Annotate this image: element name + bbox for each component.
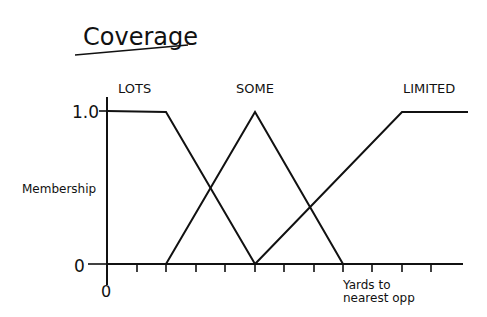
y-tick-label-top: 1.0 bbox=[72, 102, 99, 122]
x-axis-ticks bbox=[137, 264, 431, 272]
x-origin-label: 0 bbox=[101, 282, 111, 301]
x-axis-label-line2: nearest opp bbox=[343, 291, 415, 305]
series-lots-line bbox=[107, 111, 255, 264]
series-limited-line bbox=[255, 112, 468, 264]
chart-title: Coverage bbox=[83, 23, 198, 51]
series-some-line bbox=[166, 112, 343, 264]
series-label-limited: LIMITED bbox=[403, 81, 455, 96]
x-axis-label-line1: Yards to bbox=[342, 278, 390, 292]
series-label-lots: LOTS bbox=[118, 81, 151, 96]
series-label-some: SOME bbox=[236, 81, 274, 96]
y-tick-label-bottom: 0 bbox=[74, 256, 85, 276]
fuzzy-membership-chart: Coverage LOTS SOME LIMITED 1.0 0 Members… bbox=[0, 0, 487, 317]
y-axis-label: Membership bbox=[22, 182, 96, 196]
